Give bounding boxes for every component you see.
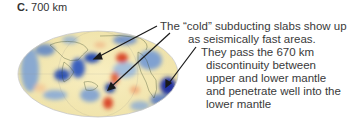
caption-line-2: as seismically fast areas. xyxy=(188,33,316,46)
caption-line-5: upper and lower mantle xyxy=(206,72,326,85)
caption-line-6: and penetrate well into the xyxy=(206,85,341,98)
caption-line-4: discontinuity between xyxy=(206,59,316,72)
globe-surface xyxy=(18,31,178,117)
caption-line-3: They pass the 670 km xyxy=(201,46,314,59)
caption-line-1: The “cold” subducting slabs show up xyxy=(160,20,347,33)
caption-line-7: lower mantle xyxy=(206,98,271,111)
